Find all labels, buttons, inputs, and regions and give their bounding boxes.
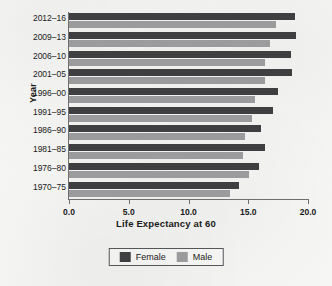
x-axis-tick xyxy=(308,199,309,204)
y-axis-tick-label: 2001–05 xyxy=(16,70,66,79)
x-axis-tick-label: 0.0 xyxy=(49,207,89,217)
x-axis-tick-label: 5.0 xyxy=(109,207,149,217)
x-axis-tick xyxy=(248,199,249,204)
legend-item-male: Male xyxy=(177,252,213,262)
x-axis-tick xyxy=(69,199,70,204)
chart-legend: Female Male xyxy=(109,248,224,266)
y-axis-tick-label: 1976–80 xyxy=(16,164,66,173)
x-axis-tick xyxy=(129,199,130,204)
y-axis-tick-label: 1991–95 xyxy=(16,108,66,117)
y-axis-tick-label: 2009–13 xyxy=(16,33,66,42)
y-axis-tick-label: 1981–85 xyxy=(16,145,66,154)
y-axis-tick-label: 1996–00 xyxy=(16,89,66,98)
x-axis-title: Life Expectancy at 60 xyxy=(0,218,332,229)
plot-wrapper: Year 2012–162009–132006–102001–051996–00… xyxy=(0,0,332,286)
y-axis-tick-label: 1986–90 xyxy=(16,126,66,135)
bar-chart: Year 2012–162009–132006–102001–051996–00… xyxy=(0,0,332,286)
x-axis-tick xyxy=(189,199,190,204)
y-axis-tick-label: 1970–75 xyxy=(16,183,66,192)
y-axis-tick-label: 2006–10 xyxy=(16,52,66,61)
legend-label-female: Female xyxy=(136,252,166,262)
legend-item-female: Female xyxy=(120,252,166,262)
y-axis-tick-label: 2012–16 xyxy=(16,14,66,23)
legend-swatch-female xyxy=(120,252,131,262)
x-axis-tick-label: 10.0 xyxy=(169,207,209,217)
x-axis-tick-label: 15.0 xyxy=(228,207,268,217)
legend-swatch-male xyxy=(177,252,188,262)
y-axis-category-labels: 2012–162009–132006–102001–051996–001991–… xyxy=(16,12,66,198)
legend-label-male: Male xyxy=(193,252,213,262)
x-axis-tick-label: 20.0 xyxy=(288,207,328,217)
x-axis-ticks: 0.05.010.015.020.0 xyxy=(69,12,308,222)
